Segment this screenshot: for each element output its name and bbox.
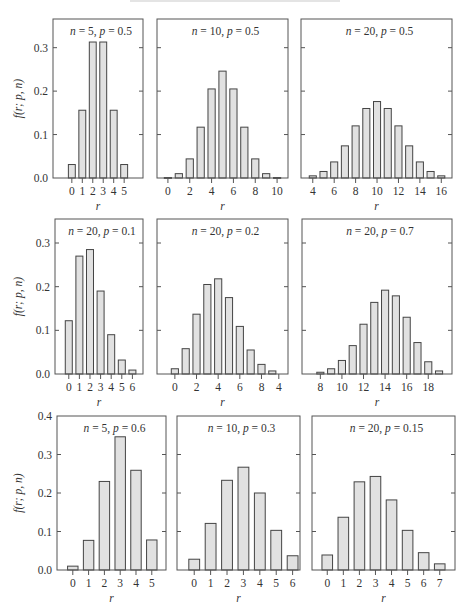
x-tick-label: 2 (87, 381, 93, 393)
panel-title: n = 20, p = 0.2 (192, 225, 260, 238)
y-tick-label: 0.3 (34, 42, 49, 54)
y-axis-label: f(r; p, n) (12, 277, 25, 316)
bar-r-2 (186, 159, 193, 178)
bar-r-10 (338, 360, 345, 374)
y-tick-label: 0.4 (38, 410, 53, 422)
bar-r-0 (171, 369, 178, 374)
bar-r-1 (205, 523, 216, 570)
y-tick-label: 0.3 (38, 449, 53, 461)
bar-r-8 (252, 159, 259, 178)
bar-r-13 (371, 302, 378, 374)
x-axis-label: r (96, 200, 101, 212)
panel-title: n = 10, p = 0.5 (192, 25, 260, 38)
bar-r-4 (131, 470, 141, 570)
bar-r-6 (236, 326, 243, 374)
y-tick-label: 0.1 (38, 526, 53, 538)
x-tick-label: 6 (130, 381, 136, 393)
x-tick-label: 5 (149, 577, 155, 589)
x-axis-label: r (97, 396, 102, 408)
title-value: = 0.15 (391, 422, 424, 434)
x-tick-label: 3 (373, 577, 379, 589)
y-tick-label: 0.0 (36, 368, 51, 380)
bar-r-12 (395, 126, 402, 178)
plot-frame (157, 219, 288, 374)
x-tick-label: 0 (70, 577, 76, 589)
plot-frame (53, 19, 143, 178)
y-tick-label: 0.0 (34, 172, 49, 184)
bar-r-4 (108, 335, 115, 374)
y-tick-label: 0.3 (36, 237, 51, 249)
y-axis-label: f(r; p, n) (12, 79, 25, 118)
bar-r-6 (129, 370, 136, 374)
bar-r-17 (414, 343, 421, 374)
bar-series (68, 42, 127, 178)
bar-r-2 (193, 314, 200, 374)
bar-r-3 (238, 467, 249, 570)
y-tick-label: 0.2 (34, 85, 49, 97)
bar-r-5 (320, 171, 327, 178)
y-tick-label: 0.2 (36, 281, 51, 293)
bar-r-13 (406, 146, 413, 178)
title-value: = 20, (74, 225, 104, 238)
title-value: = 20, (356, 422, 386, 435)
bar-r-14 (416, 162, 423, 178)
bar-r-3 (204, 284, 211, 374)
x-tick-label: 3 (98, 381, 104, 393)
binomial-distribution-figure: 0.00.10.20.3012345rf(r; p, n)n = 5, p = … (0, 0, 469, 614)
y-tick-label: 0.1 (34, 129, 49, 141)
subplot-1: 0.00.10.20.3012345rf(r; p, n)n = 5, p = … (12, 19, 143, 212)
bar-r-16 (403, 317, 410, 374)
x-tick-label: 3 (241, 577, 247, 589)
bar-r-1 (175, 174, 182, 178)
bar-r-0 (322, 555, 333, 570)
x-axis-label: r (374, 200, 379, 212)
bar-series (309, 102, 445, 178)
title-value: = 10, (213, 422, 243, 435)
panel-title: n = 5, p = 0.5 (70, 25, 132, 38)
bar-r-14 (382, 290, 389, 374)
x-tick-label: 1 (79, 185, 85, 197)
title-value: = 0.5 (105, 25, 132, 37)
bar-r-4 (254, 493, 265, 570)
x-tick-label: 5 (405, 577, 411, 589)
title-value: = 0.1 (109, 225, 136, 237)
title-value: = 0.6 (119, 422, 146, 434)
x-tick-label: 4 (209, 185, 215, 197)
bar-r-3 (100, 42, 107, 178)
bar-r-2 (354, 482, 365, 570)
bar-r-7 (434, 564, 445, 570)
x-tick-label: 1 (77, 381, 83, 393)
x-tick-label: 0 (69, 185, 75, 197)
x-tick-label: 4 (276, 381, 282, 393)
bar-r-15 (427, 171, 434, 178)
x-axis-label: r (220, 396, 225, 408)
bar-r-2 (222, 480, 233, 570)
subplot-8: 0123456rn = 10, p = 0.3 (177, 416, 300, 604)
x-axis-label: r (220, 200, 225, 212)
x-tick-label: 4 (108, 381, 114, 393)
bar-r-3 (370, 476, 381, 570)
x-tick-label: 10 (271, 185, 283, 197)
x-tick-label: 4 (215, 381, 221, 393)
bar-r-2 (99, 481, 109, 570)
plot-frame (312, 416, 455, 570)
x-tick-label: 4 (111, 185, 117, 197)
x-tick-label: 2 (102, 577, 108, 589)
bar-r-12 (360, 324, 367, 374)
bar-r-5 (118, 360, 125, 374)
x-axis-label: r (109, 592, 114, 604)
bar-r-11 (384, 108, 391, 178)
bar-r-10 (374, 102, 381, 178)
title-value: = 0.2 (233, 225, 260, 237)
bar-r-2 (89, 42, 96, 178)
x-tick-label: 6 (237, 381, 243, 393)
x-tick-label: 8 (353, 185, 359, 197)
x-tick-label: 10 (336, 381, 348, 393)
x-tick-label: 3 (117, 577, 123, 589)
panel-title: n = 20, p = 0.1 (68, 225, 136, 238)
bar-r-4 (208, 89, 215, 178)
x-tick-label: 0 (165, 185, 171, 197)
bar-series (171, 279, 276, 374)
bar-r-8 (258, 364, 265, 374)
x-tick-label: 5 (273, 577, 279, 589)
